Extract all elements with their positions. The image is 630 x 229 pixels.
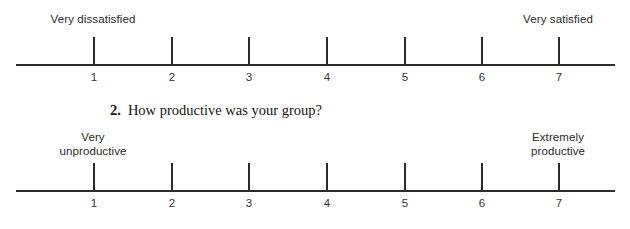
scale-tick-number-7[interactable]: 7 <box>547 70 571 84</box>
scale-axis-line <box>16 190 615 192</box>
scale-tick-5[interactable] <box>404 37 406 65</box>
scale-tick-number-4[interactable]: 4 <box>315 196 339 210</box>
scale-tick-6[interactable] <box>481 37 483 65</box>
scale-tick-number-7[interactable]: 7 <box>547 196 571 210</box>
survey-page: Very dissatisfied Very satisfied 1 2 3 4… <box>0 0 630 229</box>
scale-tick-number-4[interactable]: 4 <box>315 70 339 84</box>
scale-tick-1[interactable] <box>93 37 95 65</box>
scale-tick-number-6[interactable]: 6 <box>470 196 494 210</box>
anchor-label-high-satisfaction: Very satisfied <box>493 13 623 27</box>
scale-tick-4[interactable] <box>326 37 328 65</box>
anchor-label-low-productivity: Very unproductive <box>28 131 158 158</box>
scale-tick-1[interactable] <box>93 163 95 191</box>
scale-tick-number-5[interactable]: 5 <box>393 196 417 210</box>
scale-tick-4[interactable] <box>326 163 328 191</box>
scale-tick-number-5[interactable]: 5 <box>393 70 417 84</box>
scale-tick-6[interactable] <box>481 163 483 191</box>
rating-scale-satisfaction: Very dissatisfied Very satisfied 1 2 3 4… <box>0 0 630 95</box>
scale-tick-number-3[interactable]: 3 <box>237 70 261 84</box>
anchor-label-low-satisfaction: Very dissatisfied <box>28 13 158 27</box>
scale-tick-2[interactable] <box>171 37 173 65</box>
scale-tick-number-1[interactable]: 1 <box>82 196 106 210</box>
scale-tick-number-6[interactable]: 6 <box>470 70 494 84</box>
scale-tick-number-3[interactable]: 3 <box>237 196 261 210</box>
question-text: How productive was your group? <box>128 102 322 118</box>
scale-tick-3[interactable] <box>248 37 250 65</box>
anchor-label-high-productivity: Extremely productive <box>493 131 623 158</box>
question-2: 2.How productive was your group? <box>110 101 322 119</box>
scale-tick-7[interactable] <box>558 163 560 191</box>
scale-axis-line <box>16 64 615 66</box>
scale-tick-3[interactable] <box>248 163 250 191</box>
scale-tick-2[interactable] <box>171 163 173 191</box>
scale-tick-5[interactable] <box>404 163 406 191</box>
scale-tick-number-2[interactable]: 2 <box>160 70 184 84</box>
scale-tick-number-2[interactable]: 2 <box>160 196 184 210</box>
question-number: 2. <box>110 102 121 118</box>
rating-scale-productivity: Very unproductive Extremely productive 1… <box>0 130 630 229</box>
scale-tick-7[interactable] <box>558 37 560 65</box>
scale-tick-number-1[interactable]: 1 <box>82 70 106 84</box>
